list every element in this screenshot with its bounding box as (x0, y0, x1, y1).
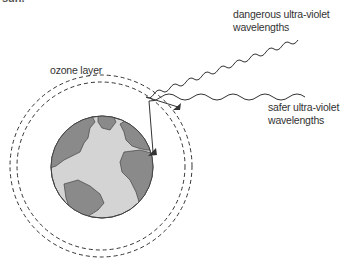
ozone-diagram (0, 0, 342, 265)
safer-uv-label-line1: safer ultra-violet (268, 101, 339, 114)
dangerous-uv-label-line1: dangerous ultra-violet (233, 8, 330, 21)
dangerous-uv-wave-arrow (146, 40, 298, 110)
dangerous-uv-label-line2: wavelengths (233, 21, 289, 34)
safer-uv-label-line2: wavelengths (268, 114, 324, 127)
globe-icon (50, 114, 155, 222)
ozone-layer-label: ozone layer (50, 64, 102, 77)
